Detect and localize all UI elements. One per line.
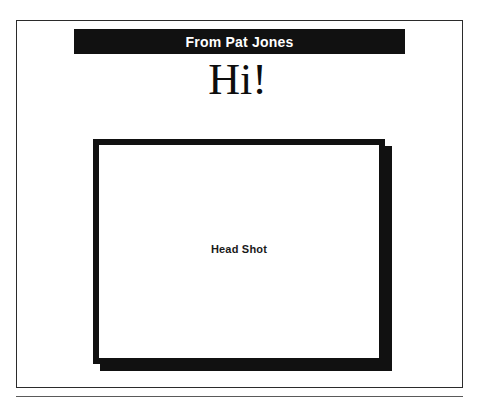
- title-banner-text: From Pat Jones: [186, 35, 294, 49]
- head-shot-placeholder[interactable]: Head Shot: [93, 139, 392, 371]
- head-shot-placeholder-label: Head Shot: [211, 244, 267, 255]
- bottom-divider: [16, 396, 463, 397]
- head-shot-placeholder-frame[interactable]: Head Shot: [93, 139, 385, 364]
- slide-subtitle: Hi!: [16, 56, 463, 104]
- slide-canvas: From Pat Jones Hi! Head Shot: [0, 0, 479, 406]
- title-banner: From Pat Jones: [74, 29, 405, 54]
